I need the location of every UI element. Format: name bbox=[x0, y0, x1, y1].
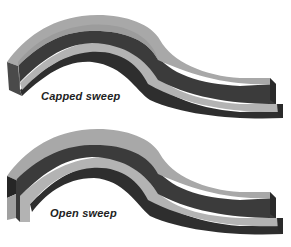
right-end-upper bbox=[270, 192, 276, 218]
open-sweep-solid bbox=[0, 118, 291, 242]
figure-caption: Open sweep bbox=[50, 207, 117, 219]
figure-caption: Capped sweep bbox=[41, 90, 120, 102]
open-end-inner-lip bbox=[16, 180, 20, 222]
capped-sweep-solid bbox=[0, 0, 291, 124]
capped-sweep-figure: Capped sweep bbox=[0, 0, 291, 124]
open-sweep-figure: Open sweep bbox=[0, 118, 291, 242]
right-end-upper bbox=[270, 78, 276, 104]
open-end-floor bbox=[7, 194, 16, 220]
